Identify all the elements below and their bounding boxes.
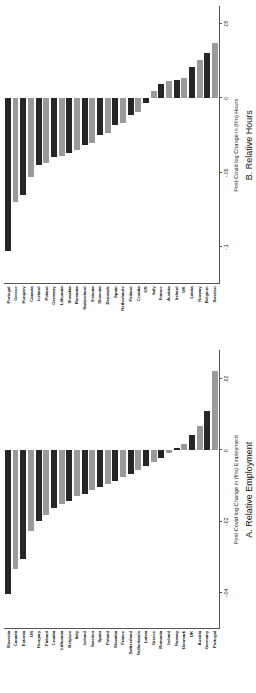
bar-row	[188, 351, 196, 629]
bar	[197, 426, 203, 450]
bar-row	[73, 6, 81, 284]
bar-row	[157, 6, 165, 284]
category-label: Sweden	[89, 629, 97, 687]
category-label: Canada	[28, 285, 36, 343]
bar-row	[157, 351, 165, 629]
bar-row	[150, 351, 158, 629]
x-axis-tick-label: 0	[223, 97, 229, 100]
category-label: Switzerland	[81, 285, 89, 343]
bar	[105, 450, 111, 484]
category-label: Lithuania	[58, 629, 66, 687]
category-label: Denmark	[181, 629, 189, 687]
category-label: Romania	[158, 629, 166, 687]
bar-row	[119, 351, 127, 629]
bar	[97, 450, 103, 487]
bar-row	[19, 351, 27, 629]
x-axis-tick-label: .02	[223, 376, 229, 383]
bar	[212, 371, 218, 450]
category-label: Hungary	[20, 285, 28, 343]
bar	[158, 84, 164, 98]
bar-row	[142, 351, 150, 629]
bar	[74, 450, 80, 496]
bar	[174, 448, 180, 450]
bar-row	[42, 6, 50, 284]
category-label: Sweden	[211, 285, 219, 343]
category-label: Netherlands	[120, 285, 128, 343]
bar	[158, 450, 164, 458]
bar	[197, 60, 203, 98]
panel-a-category-labels: SloveniaCanadaEstoniaUSHungaryFinlandCro…	[4, 629, 219, 687]
bar	[212, 43, 218, 98]
bar-row	[211, 6, 219, 284]
category-label: Spain	[97, 629, 105, 687]
category-label: Greece	[13, 285, 21, 343]
bar-row	[196, 351, 204, 629]
bar-row	[203, 6, 211, 284]
category-label: Italy	[150, 285, 158, 343]
x-axis-tick-label: -.04	[223, 589, 229, 598]
bar	[189, 67, 195, 98]
bar	[135, 98, 141, 112]
category-label: US	[143, 285, 151, 343]
bar-row	[35, 351, 43, 629]
category-label: Belgium	[66, 629, 74, 687]
category-label: France	[158, 285, 166, 343]
category-label: Slovenia	[97, 285, 105, 343]
category-label: Switzerland	[127, 629, 135, 687]
bar-row	[4, 351, 12, 629]
bar	[13, 450, 19, 569]
category-label: Spain	[112, 285, 120, 343]
panel-a-title: A. Relative Employment	[244, 351, 254, 630]
bar	[89, 450, 95, 490]
bar	[128, 450, 134, 474]
x-axis-tick-label: -.1	[223, 244, 229, 250]
category-label: Slovenia	[5, 629, 13, 687]
bar	[89, 98, 95, 143]
panel-a-plot-row: SloveniaCanadaEstoniaUSHungaryFinlandCro…	[4, 351, 219, 688]
x-axis-tick-label: -.02	[223, 518, 229, 527]
bar-row	[150, 6, 158, 284]
bar	[36, 98, 42, 165]
bar	[28, 98, 34, 177]
category-label: Croatia	[51, 629, 59, 687]
bar-row	[65, 6, 73, 284]
bar	[59, 98, 65, 156]
category-label: Canada	[13, 629, 21, 687]
bar-row	[12, 351, 20, 629]
bar	[120, 450, 126, 477]
bar	[66, 450, 72, 501]
bar-row	[27, 351, 35, 629]
category-label: Estonia	[20, 629, 28, 687]
category-label: Norway	[196, 285, 204, 343]
bar-row	[127, 351, 135, 629]
category-label: France	[120, 629, 128, 687]
category-label: Belgium	[204, 285, 212, 343]
category-label: Estonia	[89, 285, 97, 343]
bar	[181, 78, 187, 98]
x-axis-tick-label: -.05	[223, 169, 229, 178]
figure-rotation-wrapper: SloveniaCanadaEstoniaUSHungaryFinlandCro…	[0, 0, 256, 693]
category-label: Finland	[127, 285, 135, 343]
bar	[166, 81, 172, 98]
bar-row	[12, 6, 20, 284]
bar	[135, 450, 141, 470]
category-label: Slovakia	[66, 285, 74, 343]
category-label: Poland	[43, 285, 51, 343]
category-label: Portugal	[5, 285, 13, 343]
bar-row	[4, 6, 12, 284]
bar-row	[88, 6, 96, 284]
category-label: Italy	[74, 629, 82, 687]
bar-row	[50, 6, 58, 284]
bar	[128, 98, 134, 115]
category-label: Croatia	[135, 285, 143, 343]
bar-row	[180, 351, 188, 629]
panel-b-axis-line	[219, 6, 220, 285]
bar	[174, 80, 180, 98]
panel-a-x-axis: -.04-.020.02	[219, 351, 234, 630]
bar	[112, 98, 118, 125]
bar-row	[196, 6, 204, 284]
bar	[43, 98, 49, 163]
bar	[204, 54, 210, 99]
category-label: Poland	[104, 629, 112, 687]
category-label: Germany	[204, 629, 212, 687]
